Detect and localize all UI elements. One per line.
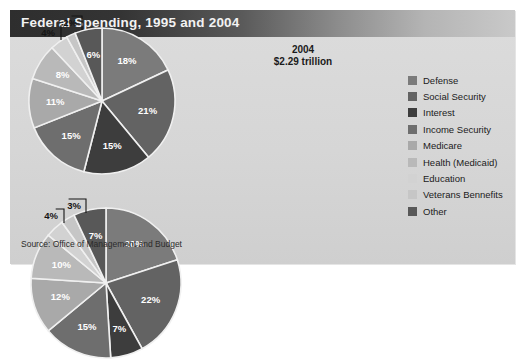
pie-slice-label: 10% bbox=[52, 259, 72, 270]
source-note: Source: Office of Management and Budget bbox=[21, 239, 182, 249]
infographic-panel: Federal Spending, 1995 and 2004 1995 $1.… bbox=[10, 10, 515, 264]
legend-item-label: Health (Medicaid) bbox=[423, 157, 497, 168]
legend-swatch-icon bbox=[408, 158, 417, 167]
pie-1995-svg: 18%21%15%15%11%8%6%4%2% bbox=[10, 10, 200, 185]
legend-item-label: Social Security bbox=[423, 91, 486, 102]
pie-callout: 4% bbox=[41, 26, 61, 40]
legend-item: Veterans Bennefits bbox=[408, 187, 512, 203]
legend-swatch-icon bbox=[408, 108, 417, 117]
legend-swatch-icon bbox=[408, 174, 417, 183]
pie-2004-heading: 2004 $2.29 trillion bbox=[247, 44, 359, 68]
pie-callout: 4% bbox=[44, 209, 64, 223]
legend-item: Health (Medicaid) bbox=[408, 154, 512, 170]
legend-swatch-icon bbox=[408, 76, 417, 85]
legend-item-label: Other bbox=[423, 206, 447, 217]
legend-item-label: Interest bbox=[423, 107, 455, 118]
pie-slice-label: 7% bbox=[113, 323, 127, 334]
pie-slice-label-outside: 4% bbox=[41, 27, 55, 38]
legend-swatch-icon bbox=[408, 207, 417, 216]
pie-slice-label-outside: 3% bbox=[67, 200, 81, 211]
callout-leader-line bbox=[60, 26, 61, 40]
pie-slice-label: 12% bbox=[51, 291, 71, 302]
pie-slice-label: 22% bbox=[141, 294, 161, 305]
pie-slice-label: 18% bbox=[118, 55, 138, 66]
pie-chart-1995: 18%21%15%15%11%8%6%4%2% bbox=[10, 10, 200, 185]
pie-slice-label: 8% bbox=[56, 69, 70, 80]
legend-item: Defense bbox=[408, 72, 512, 88]
pie-2004-total: $2.29 trillion bbox=[247, 56, 359, 68]
legend-item: Income Security bbox=[408, 121, 512, 137]
legend-swatch-icon bbox=[408, 125, 417, 134]
legend-item-label: Medicare bbox=[423, 140, 462, 151]
legend: DefenseSocial SecurityInterestIncome Sec… bbox=[408, 72, 512, 220]
pie-slice-label: 21% bbox=[138, 105, 158, 116]
legend-item-label: Income Security bbox=[423, 124, 491, 135]
pie-slice-label-outside: 2% bbox=[63, 17, 77, 28]
pie-chart-2004: 20%22%7%15%12%10%7%4%3% bbox=[10, 185, 200, 360]
legend-swatch-icon bbox=[408, 92, 417, 101]
legend-item-label: Education bbox=[423, 173, 465, 184]
pie-slice-label: 15% bbox=[77, 321, 97, 332]
legend-item-label: Veterans Bennefits bbox=[423, 189, 503, 200]
pie-slice-label: 11% bbox=[46, 96, 65, 107]
legend-item: Education bbox=[408, 170, 512, 186]
pie-slice-label: 15% bbox=[62, 130, 82, 141]
pie-slice-label: 6% bbox=[86, 49, 100, 60]
pie-callout: 2% bbox=[63, 16, 82, 30]
pie-slice-label: 15% bbox=[103, 140, 123, 151]
legend-item: Medicare bbox=[408, 138, 512, 154]
pie-2004-svg: 20%22%7%15%12%10%7%4%3% bbox=[10, 185, 200, 360]
legend-item: Interest bbox=[408, 105, 512, 121]
legend-item-label: Defense bbox=[423, 75, 458, 86]
legend-item: Other bbox=[408, 203, 512, 219]
pie-slice-label-outside: 4% bbox=[44, 210, 58, 221]
legend-item: Social Security bbox=[408, 88, 512, 104]
pie-2004-year: 2004 bbox=[247, 44, 359, 56]
legend-swatch-icon bbox=[408, 190, 417, 199]
legend-swatch-icon bbox=[408, 141, 417, 150]
